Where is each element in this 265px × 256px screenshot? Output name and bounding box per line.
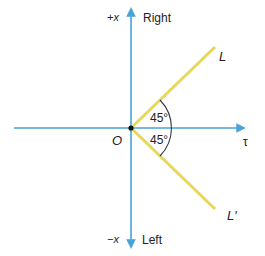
top-axis-word: Right [143,11,172,25]
upper-angle-label: 45° [150,111,168,125]
spacetime-diagram: O +x Right −x Left τ L L′ 45° 45° [0,0,265,256]
top-axis-symbol: +x [107,11,119,23]
line-L-prime-label: L′ [227,208,237,223]
line-L-prime [131,128,215,209]
line-L [131,47,215,128]
origin-dot [128,125,133,130]
horizontal-axis-label: τ [243,135,248,149]
bottom-axis-word: Left [142,233,163,247]
line-L-label: L [219,49,226,64]
bottom-axis-symbol: −x [107,233,119,245]
lower-angle-label: 45° [150,133,168,147]
origin-label: O [112,133,122,148]
